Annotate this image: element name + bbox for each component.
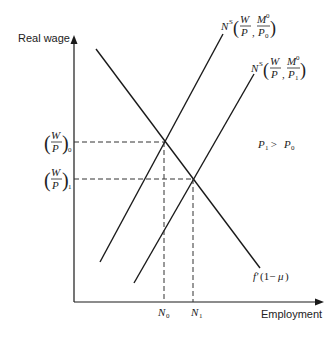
labor-supply-curve-p0 [100,34,223,262]
svg-text:f': f' [253,270,259,282]
svg-text:N: N [220,20,229,32]
svg-text:P: P [287,68,295,80]
svg-text:(: ( [263,60,269,81]
svg-text:(: ( [44,132,51,155]
labor-demand-label: f' (1− μ ) [253,270,289,283]
svg-text:1: 1 [68,183,72,191]
y-tick-wage-1: ( W P ) 1 [44,166,72,192]
svg-text:μ: μ [277,270,284,282]
svg-text:0: 0 [265,32,269,40]
svg-text:>: > [268,138,280,150]
svg-text:N: N [190,306,199,318]
labor-supply-curve-p1 [134,74,254,283]
x-tick-employment-1: N 1 [190,306,203,320]
svg-text:P: P [270,68,278,80]
svg-text:(: ( [44,169,51,192]
supply-label-p1: N S ( W P , M 0 P 1 ) [250,54,306,82]
svg-text:N: N [157,306,166,318]
svg-text:W: W [51,129,61,141]
svg-text:(: ( [233,18,239,39]
svg-text:0: 0 [68,146,72,154]
svg-text:P: P [283,138,291,150]
y-tick-wage-0: ( W P ) 0 [44,129,72,155]
svg-text:): ) [300,60,306,81]
svg-text:P: P [240,26,248,38]
x-axis-label: Employment [261,308,322,320]
svg-text:P: P [51,142,59,154]
svg-text:1: 1 [199,312,203,320]
svg-text:1: 1 [295,74,299,82]
labor-demand-curve [96,49,260,268]
svg-text:(1−: (1− [260,270,275,283]
svg-text:N: N [250,62,259,74]
svg-text:): ) [270,18,276,39]
svg-text:W: W [270,55,280,67]
y-axis-label: Real wage [18,32,70,44]
supply-label-p0: N S ( W P , M 0 P 0 ) [220,12,276,40]
svg-text:): ) [285,270,289,283]
svg-text:0: 0 [291,144,295,152]
svg-text:,: , [282,68,285,80]
svg-text:P: P [257,138,265,150]
svg-text:P: P [257,26,265,38]
svg-text:W: W [51,166,61,178]
y-axis-arrow-icon [71,35,78,44]
svg-text:P: P [51,179,59,191]
svg-text:0: 0 [166,312,170,320]
x-axis-arrow-icon [315,299,324,306]
svg-text:W: W [240,13,250,25]
price-comparison-annotation: P 1 > P 0 [257,138,295,152]
labor-market-diagram: Real wage Employment ( W P ) 0 ( W P ) 1… [0,0,336,337]
svg-text:,: , [252,26,255,38]
x-tick-employment-0: N 0 [157,306,170,320]
